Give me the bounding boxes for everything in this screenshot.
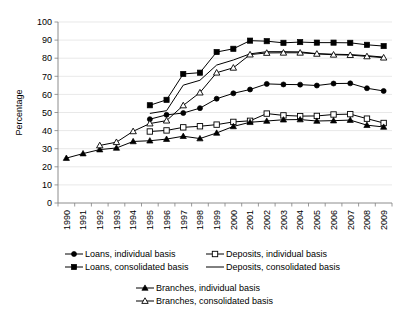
x-tick-label: 2002	[262, 210, 272, 230]
x-tick-label: 2005	[312, 210, 322, 230]
marker-filled-square	[364, 42, 369, 47]
legend-label: Deposits, individual basis	[226, 249, 328, 259]
y-tick-label: 70	[42, 72, 52, 82]
series-5	[97, 50, 387, 148]
legend-item[interactable]: Loans, individual basis	[65, 249, 176, 259]
legend-item[interactable]: Loans, consolidated basis	[65, 262, 189, 272]
marker-open-triangle	[180, 102, 186, 108]
legend-item[interactable]: Deposits, individual basis	[206, 249, 328, 259]
marker-filled-square	[71, 264, 76, 269]
x-tick-label: 1997	[179, 210, 189, 230]
y-tick-label: 40	[42, 126, 52, 136]
marker-filled-circle	[214, 96, 219, 101]
x-tick-label: 1996	[162, 210, 172, 230]
x-tick-label: 1998	[195, 210, 205, 230]
x-tick-label: 2001	[245, 210, 255, 230]
marker-open-square	[348, 111, 353, 116]
marker-open-square	[181, 125, 186, 130]
marker-filled-circle	[298, 82, 303, 87]
legend-label: Deposits, consolidated basis	[226, 262, 341, 272]
marker-open-square	[214, 122, 219, 127]
marker-filled-square	[281, 40, 286, 45]
marker-open-square	[212, 251, 217, 256]
x-tick-label: 2004	[295, 210, 305, 230]
series-line	[66, 120, 383, 159]
marker-filled-square	[331, 40, 336, 45]
x-tick-label: 1995	[145, 210, 155, 230]
marker-filled-square	[197, 70, 202, 75]
marker-filled-circle	[197, 106, 202, 111]
marker-open-square	[364, 116, 369, 121]
x-tick-label: 2007	[346, 210, 356, 230]
marker-filled-square	[181, 71, 186, 76]
x-tick-label: 1992	[95, 210, 105, 230]
x-tick-label: 2009	[379, 210, 389, 230]
marker-filled-circle	[281, 82, 286, 87]
marker-filled-square	[147, 103, 152, 108]
marker-open-square	[164, 128, 169, 133]
chart-figure: 0102030405060708090100Percentage19901991…	[0, 0, 411, 317]
marker-filled-square	[247, 38, 252, 43]
legend-label: Branches, consolidated basis	[156, 296, 274, 306]
y-axis-title: Percentage	[14, 89, 24, 135]
legend-item[interactable]: Branches, individual basis	[136, 283, 261, 293]
marker-filled-square	[314, 40, 319, 45]
x-tick-label: 1991	[78, 210, 88, 230]
series-line	[100, 53, 384, 146]
marker-open-triangle	[130, 128, 136, 134]
marker-open-square	[147, 129, 152, 134]
y-tick-label: 60	[42, 90, 52, 100]
gridlines	[58, 22, 392, 185]
legend-item[interactable]: Deposits, consolidated basis	[206, 262, 341, 272]
marker-filled-circle	[248, 87, 253, 92]
marker-filled-square	[381, 43, 386, 48]
marker-open-square	[264, 111, 269, 116]
legend: Loans, individual basisDeposits, individ…	[65, 249, 341, 306]
x-tick-label: 1990	[62, 210, 72, 230]
y-tick-label: 100	[37, 17, 52, 27]
y-tick-label: 80	[42, 53, 52, 63]
series-layer	[63, 38, 387, 160]
x-tick-label: 1999	[212, 210, 222, 230]
marker-filled-circle	[364, 86, 369, 91]
marker-filled-circle	[72, 252, 77, 257]
y-tick-label: 30	[42, 144, 52, 154]
marker-filled-square	[231, 46, 236, 51]
series-1	[147, 38, 386, 108]
x-tick-label: 2006	[329, 210, 339, 230]
marker-filled-square	[164, 97, 169, 102]
y-tick-label: 0	[47, 198, 52, 208]
line-chart: 0102030405060708090100Percentage19901991…	[0, 0, 411, 317]
y-tick-label: 90	[42, 35, 52, 45]
marker-open-square	[331, 112, 336, 117]
marker-filled-circle	[348, 81, 353, 86]
marker-filled-circle	[331, 81, 336, 86]
marker-open-square	[197, 124, 202, 129]
y-axis-title-group: Percentage	[14, 89, 24, 135]
marker-filled-circle	[381, 88, 386, 93]
marker-filled-square	[348, 40, 353, 45]
y-tick-label: 10	[42, 180, 52, 190]
x-tick-label: 2003	[279, 210, 289, 230]
marker-filled-square	[264, 39, 269, 44]
x-axis: 1990199119921993199419951996199719981999…	[58, 203, 392, 230]
legend-label: Loans, consolidated basis	[85, 262, 189, 272]
x-tick-label: 1993	[112, 210, 122, 230]
marker-filled-square	[214, 49, 219, 54]
y-tick-label: 50	[42, 108, 52, 118]
x-tick-label: 2000	[229, 210, 239, 230]
legend-label: Branches, individual basis	[156, 283, 261, 293]
legend-item[interactable]: Branches, consolidated basis	[136, 296, 274, 306]
marker-filled-square	[298, 39, 303, 44]
y-axis: 0102030405060708090100	[37, 17, 58, 208]
x-tick-label: 1994	[128, 210, 138, 230]
y-tick-label: 20	[42, 162, 52, 172]
marker-filled-triangle	[180, 133, 186, 138]
legend-label: Loans, individual basis	[85, 249, 176, 259]
marker-filled-circle	[314, 83, 319, 88]
x-tick-label: 2008	[362, 210, 372, 230]
marker-open-triangle	[113, 139, 119, 145]
marker-filled-circle	[264, 81, 269, 86]
marker-filled-circle	[231, 91, 236, 96]
marker-filled-circle	[181, 111, 186, 116]
